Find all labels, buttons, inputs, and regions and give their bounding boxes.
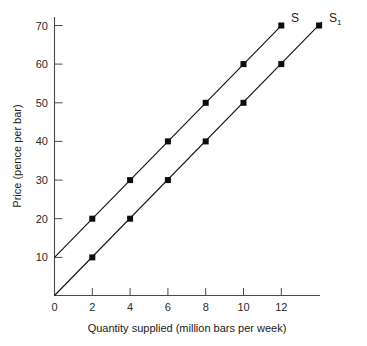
y-axis-title: Price (pence per bar) bbox=[11, 104, 23, 207]
data-point-s-12-70 bbox=[278, 23, 284, 29]
y-tick-label-70: 70 bbox=[36, 20, 48, 32]
x-tick-label-6: 6 bbox=[165, 301, 171, 313]
supply-curve-chart: 70 60 50 40 30 20 10 0 2 4 6 8 10 12 bbox=[0, 0, 367, 346]
data-point-s1-10-50 bbox=[241, 100, 247, 106]
data-point-s-10-60 bbox=[241, 61, 247, 67]
data-point-s-6-40 bbox=[165, 138, 171, 144]
y-tick-label-60: 60 bbox=[36, 58, 48, 70]
y-tick-label-30: 30 bbox=[36, 174, 48, 186]
data-point-s1-12-60 bbox=[278, 61, 284, 67]
data-point-s1-8-40 bbox=[203, 138, 209, 144]
y-tick-label-40: 40 bbox=[36, 135, 48, 147]
x-axis-title: Quantity supplied (million bars per week… bbox=[88, 322, 287, 334]
x-tick-label-10: 10 bbox=[237, 301, 249, 313]
chart-canvas: 70 60 50 40 30 20 10 0 2 4 6 8 10 12 bbox=[0, 0, 367, 346]
series-label-s: S bbox=[291, 11, 299, 25]
x-tick-label-4: 4 bbox=[127, 301, 133, 313]
y-tick-label-10: 10 bbox=[36, 251, 48, 263]
y-tick-label-20: 20 bbox=[36, 213, 48, 225]
series-label-s1-subscript: 1 bbox=[337, 18, 342, 27]
data-point-s1-4-20 bbox=[127, 216, 133, 222]
x-tick-label-2: 2 bbox=[89, 301, 95, 313]
y-tick-label-50: 50 bbox=[36, 97, 48, 109]
x-tick-label-8: 8 bbox=[203, 301, 209, 313]
series-label-s1-base: S bbox=[329, 11, 337, 25]
data-point-s-8-50 bbox=[203, 100, 209, 106]
data-point-s-4-30 bbox=[127, 177, 133, 183]
x-tick-label-0: 0 bbox=[51, 301, 57, 313]
data-point-s-2-20 bbox=[89, 216, 95, 222]
data-point-s1-14-70 bbox=[316, 23, 322, 29]
data-point-s1-6-30 bbox=[165, 177, 171, 183]
data-point-s1-2-10 bbox=[89, 254, 95, 260]
x-tick-label-12: 12 bbox=[275, 301, 287, 313]
